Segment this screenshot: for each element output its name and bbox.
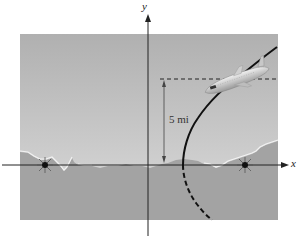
left-transmitter-icon [37,157,53,173]
hyperbola-diagram: y x 5 mi [0,0,299,242]
diagram-canvas [0,0,299,242]
distance-label: 5 mi [169,113,189,125]
x-axis-arrow-icon [281,162,289,168]
y-axis-label: y [142,0,147,12]
y-axis-arrow-icon [145,14,151,22]
x-axis-label: x [291,157,296,169]
right-transmitter-icon [237,157,253,173]
